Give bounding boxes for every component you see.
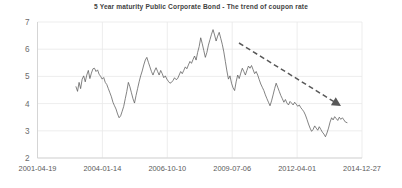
downtrend-arrow-annotation — [239, 43, 341, 106]
downtrend-arrow-shaft — [239, 43, 335, 102]
x-tick-label: 2006-10-10 — [148, 164, 186, 173]
x-tick-label: 2004-01-14 — [83, 164, 121, 173]
x-tick-label: 2014-12-27 — [343, 164, 381, 173]
x-tick-label: 2012-04-01 — [278, 164, 316, 173]
x-tick-label: 2009-07-06 — [213, 164, 251, 173]
x-axis-tick-labels: 2001-04-192004-01-142006-10-102009-07-06… — [19, 164, 381, 173]
downtrend-arrow-head — [331, 97, 341, 106]
coupon-rate-line — [76, 30, 347, 137]
y-axis-tick-labels: 234567 — [25, 18, 30, 163]
chart-container: 5 Year maturity Public Corporate Bond - … — [0, 0, 402, 188]
y-tick-label: 6 — [25, 45, 30, 54]
y-tick-label: 3 — [25, 127, 30, 136]
chart-plot: 234567 2001-04-192004-01-142006-10-10200… — [0, 0, 402, 188]
y-tick-label: 5 — [25, 72, 30, 81]
y-tick-label: 7 — [25, 18, 30, 27]
y-tick-label: 2 — [25, 154, 30, 163]
y-tick-label: 4 — [25, 100, 30, 109]
x-tick-label: 2001-04-19 — [19, 164, 57, 173]
